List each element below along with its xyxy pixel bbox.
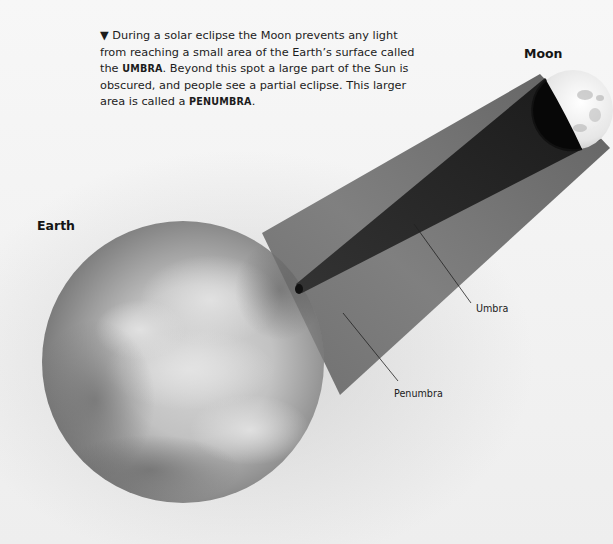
umbra-label: Umbra <box>476 303 508 314</box>
penumbra-label: Penumbra <box>394 388 443 399</box>
moon-globe <box>532 70 613 150</box>
caption-term-penumbra: PENUMBRA <box>189 96 252 107</box>
caption-part3: . <box>252 95 256 108</box>
earth-label: Earth <box>37 218 75 233</box>
caption-text: ▼ During a solar eclipse the Moon preven… <box>100 28 420 111</box>
caption-marker-icon: ▼ <box>100 29 109 42</box>
caption-term-umbra: UMBRA <box>122 63 162 74</box>
moon-label: Moon <box>524 46 563 61</box>
umbra-spot <box>295 284 303 294</box>
